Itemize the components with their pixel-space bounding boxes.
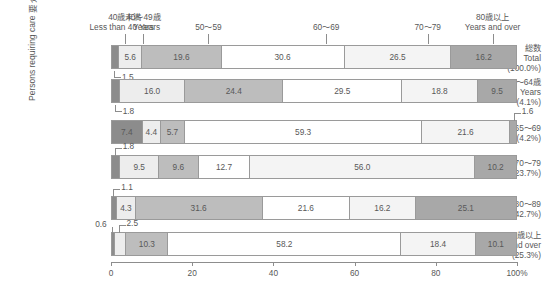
bar-segment-value: 4.4 [146, 127, 158, 137]
bar-segment: 9.5 [120, 156, 159, 178]
bar-segment-value: 16.2 [476, 52, 492, 62]
bar-segment-value: 9.6 [173, 162, 185, 172]
segment-callout: 2.5 [127, 219, 139, 228]
bar-segment: 10.1 [476, 233, 516, 255]
bar-segment-value: 25.1 [458, 203, 474, 213]
bar-segment-value: 29.5 [334, 86, 350, 96]
callout-leader-vertical [115, 148, 116, 156]
bar-segment-value: 10.1 [488, 239, 504, 249]
bar-segment-value: 21.6 [298, 203, 314, 213]
x-axis-tick-label: 100% [497, 268, 537, 278]
bar-segment: 9.5 [478, 80, 516, 102]
bar-segment-value: 4.3 [120, 203, 132, 213]
bar-segment-value: 58.2 [276, 239, 292, 249]
stacked-bar: 10.358.218.410.1 [111, 232, 517, 256]
bar-segment: 56.0 [250, 156, 475, 178]
bar-segment [112, 80, 120, 102]
stacked-bar: 9.59.612.756.010.2 [111, 155, 517, 179]
column-header-jp: 40〜49歳 [126, 12, 160, 22]
x-axis-tick [517, 262, 518, 266]
bar-segment-value: 5.6 [124, 52, 136, 62]
chart-row: 90歳以上Years and over(25.3%)10.358.218.410… [0, 232, 547, 258]
y-axis-title-jp: 要介護者等 [26, 0, 38, 13]
x-axis-tick-label: 20 [172, 268, 212, 278]
bar-segment: 12.7 [199, 156, 251, 178]
column-header-jp: 80歳以上 [476, 12, 509, 22]
column-header-leader [326, 34, 327, 44]
column-header-leader [143, 34, 144, 44]
bar-segment: 16.2 [451, 46, 516, 68]
bar-segment-value: 18.8 [432, 86, 448, 96]
stacked-bar: 7.44.45.759.321.6 [111, 120, 517, 144]
bar-segment-value: 30.6 [275, 52, 291, 62]
bar-segment-value: 9.5 [491, 86, 503, 96]
callout-leader-horizontal [514, 113, 521, 114]
bar-segment: 16.2 [350, 197, 416, 219]
bar-segment: 10.2 [475, 156, 516, 178]
bar-segment: 18.8 [402, 80, 478, 102]
x-axis [111, 262, 517, 263]
bar-segment: 5.7 [161, 121, 185, 143]
bar-segment-value: 10.2 [488, 162, 504, 172]
chart-row: 80〜89(42.7%)4.331.621.616.225.11.1 [0, 196, 547, 222]
bar-segment-value: 9.5 [133, 162, 145, 172]
column-header-en: Years and over [433, 22, 547, 32]
stacked-bar: 16.024.429.518.89.5 [111, 79, 517, 103]
bar-segment-value: 5.7 [167, 127, 179, 137]
column-header-2: 50〜59 [148, 22, 268, 32]
callout-leader-vertical [514, 113, 515, 121]
chart-row: 70〜79(23.7%)9.59.612.756.010.21.8 [0, 155, 547, 181]
stacked-bar-chart: 要介護者等 Persons requiring care 40歳未満Less t… [0, 0, 547, 303]
column-header-leader [208, 34, 209, 44]
bar-segment-value: 18.4 [430, 239, 446, 249]
x-axis-tick-label: 60 [335, 268, 375, 278]
bar-segment-value: 16.2 [374, 203, 390, 213]
callout-leader-horizontal [114, 77, 121, 78]
bar-segment [112, 156, 120, 178]
segment-callout: 0.6 [95, 220, 107, 229]
bar-segment: 30.6 [222, 46, 345, 68]
bar-segment: 59.3 [185, 121, 423, 143]
column-header-leader [125, 34, 126, 44]
bar-segment: 19.6 [142, 46, 221, 68]
bar-segment-value: 16.0 [144, 86, 160, 96]
segment-callout: 1.6 [522, 107, 534, 116]
bar-segment [115, 233, 126, 255]
bar-segment: 31.6 [136, 197, 263, 219]
callout-leader-horizontal [113, 189, 120, 190]
bar-segment-value: 10.3 [139, 239, 155, 249]
segment-callout: 1.1 [121, 183, 133, 192]
bar-segment: 58.2 [168, 233, 401, 255]
bar-segment: 4.3 [117, 197, 135, 219]
bar-segment-value: 19.6 [173, 52, 189, 62]
chart-row: 総数Total(100.0%)5.619.630.626.516.21.5 [0, 45, 547, 71]
x-axis-tick [192, 262, 193, 266]
bar-segment: 16.0 [120, 80, 185, 102]
callout-leader-horizontal [115, 111, 122, 112]
bar-segment: 18.4 [401, 233, 475, 255]
bar-segment: 21.6 [422, 121, 509, 143]
bar-segment-value: 12.7 [216, 162, 232, 172]
x-axis-tick-label: 80 [416, 268, 456, 278]
callout-leader-vertical [113, 189, 114, 197]
bar-segment: 25.1 [416, 197, 516, 219]
bar-segment-value: 59.3 [295, 127, 311, 137]
bar-segment: 4.4 [143, 121, 162, 143]
x-axis-tick [355, 262, 356, 266]
bar-segment: 10.3 [126, 233, 168, 255]
bar-segment: 21.6 [263, 197, 350, 219]
bar-segment-value: 7.4 [121, 127, 133, 137]
x-axis-tick [111, 262, 112, 266]
callout-leader-vertical [112, 227, 113, 233]
bar-segment: 24.4 [185, 80, 283, 102]
bar-segment [112, 46, 119, 68]
column-header-5: 80歳以上Years and over [433, 12, 547, 32]
bar-segment-value: 26.5 [389, 52, 405, 62]
bar-segment-value: 24.4 [226, 86, 242, 96]
stacked-bar: 5.619.630.626.516.2 [111, 45, 517, 69]
callout-leader-horizontal [119, 225, 126, 226]
bar-segment: 29.5 [283, 80, 402, 102]
bar-segment-value: 56.0 [354, 162, 370, 172]
chart-row: 40〜64歳Years(4.1%)16.024.429.518.89.51.8 [0, 79, 547, 105]
column-header-jp: 60〜69 [313, 22, 339, 32]
